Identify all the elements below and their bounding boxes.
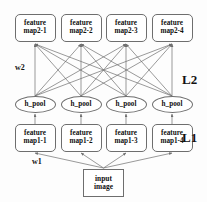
edge-pool-4-to-fmap2-2: [81, 44, 172, 96]
node-feature-map1-4-line2: map1-4: [160, 138, 183, 146]
node-feature-map2-4-line2: map2-4: [160, 28, 183, 36]
edge-input-to-fmap1-2: [81, 153, 104, 168]
edge-input-to-fmap1-1: [35, 153, 104, 168]
label-layer-l1: L1: [182, 130, 197, 146]
node-feature-map2-2: feature map2-2: [61, 14, 102, 42]
node-h-pool-1-label: h_pool: [25, 101, 46, 109]
node-h-pool-4-label: h_pool: [162, 101, 183, 109]
edge-pool-4-to-fmap2-1: [35, 44, 172, 96]
edge-pool-3-to-fmap2-4: [126, 44, 172, 96]
node-feature-map2-3: feature map2-3: [106, 14, 147, 42]
cnn-layer-diagram: feature map2-1 feature map2-2 feature ma…: [0, 0, 207, 202]
node-h-pool-2-label: h_pool: [71, 101, 92, 109]
edge-pool-2-to-fmap2-4: [81, 44, 172, 96]
node-feature-map2-3-line2: map2-3: [114, 28, 137, 36]
edge-pool-1-to-fmap2-2: [35, 44, 81, 96]
node-feature-map2-4: feature map2-4: [152, 14, 193, 42]
node-feature-map2-1: feature map2-1: [15, 14, 56, 42]
edge-pool-4-to-fmap2-3: [126, 44, 172, 96]
edge-input-to-fmap1-3: [104, 153, 127, 168]
label-weight-w1: w1: [32, 157, 42, 166]
node-feature-map1-3-line2: map1-3: [114, 138, 137, 146]
edge-pool-3-to-fmap2-1: [35, 44, 126, 96]
node-feature-map2-1-line2: map2-1: [23, 28, 46, 36]
node-feature-map1-1-line2: map1-1: [23, 138, 46, 146]
edge-input-to-fmap1-4: [104, 153, 173, 168]
edge-pool-1-to-fmap2-4: [35, 44, 172, 96]
node-h-pool-4: h_pool: [152, 96, 193, 113]
edge-pool-3-to-fmap2-2: [81, 44, 126, 96]
node-input-image: input image: [83, 169, 124, 197]
label-layer-l2: L2: [182, 72, 197, 88]
node-h-pool-3: h_pool: [106, 96, 147, 113]
node-h-pool-1: h_pool: [15, 96, 56, 113]
edge-pool-2-to-fmap2-1: [35, 44, 81, 96]
node-feature-map1-3: feature map1-3: [106, 124, 147, 152]
node-feature-map1-2: feature map1-2: [61, 124, 102, 152]
node-feature-map2-2-line2: map2-2: [69, 28, 92, 36]
edge-pool-1-to-fmap2-3: [35, 44, 126, 96]
node-feature-map1-2-line2: map1-2: [69, 138, 92, 146]
node-feature-map1-1: feature map1-1: [15, 124, 56, 152]
node-h-pool-3-label: h_pool: [116, 101, 137, 109]
label-weight-w2: w2: [15, 63, 25, 72]
node-h-pool-2: h_pool: [61, 96, 102, 113]
edge-pool-2-to-fmap2-3: [81, 44, 126, 96]
node-input-image-line2: image: [94, 183, 113, 191]
